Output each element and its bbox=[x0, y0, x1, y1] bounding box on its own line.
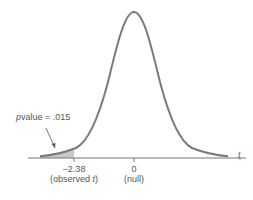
pvalue-annotation: pvalue = .015 bbox=[16, 112, 70, 122]
density-curve bbox=[40, 12, 228, 156]
tick-label-observed: −2.38 bbox=[63, 164, 86, 174]
tick-sublabel-null: (null) bbox=[124, 174, 144, 184]
tick-label-null: 0 bbox=[131, 164, 136, 174]
axis-label-t: t bbox=[238, 150, 241, 160]
pvalue-text: value = .015 bbox=[21, 112, 70, 122]
observed-text: (observed bbox=[50, 174, 93, 184]
arrowhead-icon bbox=[52, 143, 56, 148]
observed-close: ) bbox=[95, 174, 98, 184]
t-distribution-chart bbox=[0, 0, 253, 200]
tick-sublabel-observed: (observed t) bbox=[50, 174, 98, 184]
